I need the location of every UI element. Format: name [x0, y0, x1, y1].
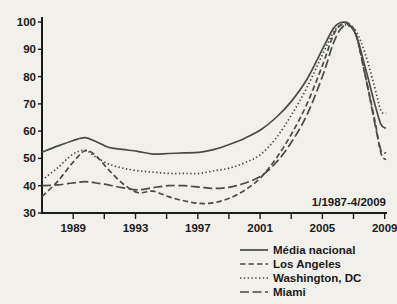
legend-item-miami[interactable]: Miami	[240, 286, 306, 298]
legend-label: Média nacional	[273, 244, 355, 256]
legend-label: Miami	[273, 286, 306, 298]
legend-item-los-angeles[interactable]: Los Angeles	[240, 258, 341, 270]
y-tick-label: 100	[17, 16, 36, 28]
y-tick-label: 90	[23, 43, 36, 55]
x-tick-label: 2001	[247, 222, 273, 234]
x-axis-tick-labels: 1989 1993 1997 2001 2005 2009	[60, 222, 397, 234]
chart-figure: 100 90 80 70 60 50 40 30	[0, 0, 397, 304]
y-tick-label: 60	[23, 125, 36, 137]
legend: Média nacional Los Angeles Washington, D…	[240, 244, 361, 298]
y-tick-label: 50	[23, 152, 36, 164]
x-tick-label: 1993	[123, 222, 149, 234]
range-annotation: 1/1987-4/2009	[312, 196, 386, 208]
series-line-miami	[42, 24, 386, 189]
y-tick-label: 30	[23, 207, 36, 219]
y-tick-label: 70	[23, 98, 36, 110]
legend-item-washington-dc[interactable]: Washington, DC	[240, 272, 361, 284]
series-line-washington-dc	[42, 24, 386, 180]
y-tick-label: 80	[23, 71, 36, 83]
x-tick-label: 1989	[60, 222, 86, 234]
legend-label: Los Angeles	[273, 258, 341, 270]
y-tick-label: 40	[23, 180, 36, 192]
series-line-los-angeles	[42, 22, 386, 203]
series-group	[42, 22, 386, 203]
line-chart: 100 90 80 70 60 50 40 30	[0, 0, 397, 304]
legend-label: Washington, DC	[273, 272, 361, 284]
x-tick-label: 2005	[310, 222, 336, 234]
y-axis-tick-labels: 100 90 80 70 60 50 40 30	[17, 16, 36, 219]
legend-item-media-nacional[interactable]: Média nacional	[240, 244, 355, 256]
x-tick-label: 1997	[185, 222, 211, 234]
x-tick-label: 2009	[372, 222, 397, 234]
